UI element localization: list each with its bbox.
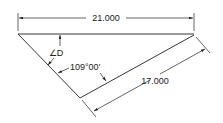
angle-given-label: 109°00': [70, 62, 101, 72]
dimension-slant-label: 17.000: [141, 76, 169, 86]
angle-d-label: ∠D: [49, 48, 64, 58]
drawing-canvas: 21.000 17.000 ∠D 109°00': [0, 0, 223, 123]
dimension-top-label: 21.000: [92, 13, 120, 23]
triangle-drawing: 21.000 17.000 ∠D 109°00': [0, 0, 223, 123]
triangle-outline: [18, 34, 194, 98]
